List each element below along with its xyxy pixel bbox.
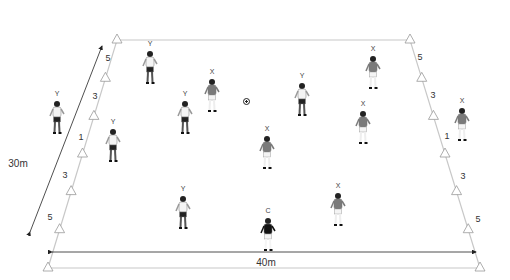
player-figure-icon <box>328 184 348 232</box>
zone-marker-left-4: 3 <box>62 170 67 180</box>
cone-marker <box>463 224 473 233</box>
zone-marker-right-5: 5 <box>475 214 480 224</box>
player-figure-icon <box>258 209 278 257</box>
player-figure-icon <box>175 92 195 140</box>
player-x: X <box>452 99 472 147</box>
player-y: Y <box>140 42 160 90</box>
player-y: Y <box>175 92 195 140</box>
zone-marker-left-3: 1 <box>78 132 83 142</box>
player-team-label: Y <box>148 40 153 47</box>
cone-marker <box>475 262 485 271</box>
player-team-label: X <box>460 97 465 104</box>
cone-marker <box>43 262 53 271</box>
player-x: X <box>257 127 277 175</box>
cone-marker <box>417 72 427 81</box>
player-figure-icon <box>173 187 193 235</box>
width-label: 40m <box>256 257 275 268</box>
cone-marker <box>66 186 76 195</box>
player-figure-icon <box>103 120 123 168</box>
player-figure-icon <box>140 42 160 90</box>
player-y: Y <box>47 92 67 140</box>
player-team-label: Y <box>183 90 188 97</box>
player-x: X <box>328 184 348 232</box>
player-team-label: X <box>361 100 366 107</box>
depth-label: 30m <box>8 158 27 169</box>
player-figure-icon <box>202 70 222 118</box>
player-figure-icon <box>47 92 67 140</box>
zone-marker-left-2: 3 <box>92 91 97 101</box>
player-team-label: X <box>265 125 270 132</box>
player-y: Y <box>173 187 193 235</box>
player-figure-icon <box>363 47 383 95</box>
player-team-label: Y <box>55 90 60 97</box>
player-y: Y <box>292 74 312 122</box>
cone-marker <box>112 34 122 43</box>
cone-marker <box>440 148 450 157</box>
player-team-label: Y <box>111 118 116 125</box>
player-team-label: X <box>336 182 341 189</box>
cone-marker <box>428 110 438 119</box>
cone-marker <box>89 110 99 119</box>
cone-marker <box>100 72 110 81</box>
player-team-label: X <box>210 68 215 75</box>
zone-marker-right-3: 1 <box>444 131 449 141</box>
player-team-label: C <box>265 207 270 214</box>
zone-marker-left-5: 5 <box>47 212 52 222</box>
player-figure-icon <box>353 102 373 150</box>
zone-marker-right-4: 3 <box>460 171 465 181</box>
cone-marker <box>78 148 88 157</box>
zone-marker-left-1: 5 <box>105 53 110 63</box>
ball-icon <box>243 98 250 105</box>
player-team-label: Y <box>300 72 305 79</box>
player-figure-icon <box>292 74 312 122</box>
player-team-label: Y <box>181 185 186 192</box>
field-lines <box>0 0 510 280</box>
cone-marker <box>55 224 65 233</box>
zone-marker-right-2: 3 <box>430 90 435 100</box>
zone-marker-right-1: 5 <box>417 52 422 62</box>
player-x: X <box>353 102 373 150</box>
cone-marker <box>452 186 462 195</box>
player-figure-icon <box>257 127 277 175</box>
player-figure-icon <box>452 99 472 147</box>
player-x: X <box>202 70 222 118</box>
player-y: Y <box>103 120 123 168</box>
drill-diagram: 30m 40m 5 3 1 3 5 5 3 1 3 5 Y X Y <box>0 0 510 280</box>
player-team-label: X <box>371 45 376 52</box>
player-c: C <box>258 209 278 257</box>
cone-marker <box>405 34 415 43</box>
player-x: X <box>363 47 383 95</box>
